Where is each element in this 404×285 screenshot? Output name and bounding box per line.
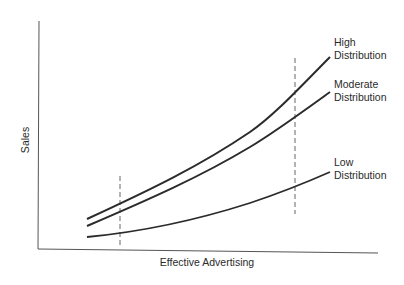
label-high-line1: High <box>334 36 356 48</box>
label-moderate-line2: Distribution <box>334 91 387 103</box>
curve-high-distribution <box>87 57 330 219</box>
label-high-line2: Distribution <box>334 49 387 61</box>
x-axis <box>38 249 378 253</box>
x-axis-label: Effective Advertising <box>160 256 255 268</box>
y-axis-label: Sales <box>19 127 31 153</box>
curve-low-distribution <box>87 172 330 237</box>
label-low-line1: Low <box>334 156 354 168</box>
y-axis <box>38 21 39 249</box>
sales-vs-advertising-diagram: High Distribution Moderate Distribution … <box>0 0 404 285</box>
label-moderate-line1: Moderate <box>334 78 379 90</box>
label-low-line2: Distribution <box>334 169 387 181</box>
